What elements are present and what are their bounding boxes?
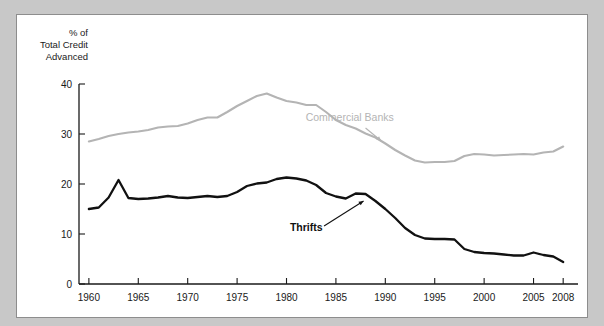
y-axis-title-line-1: % of xyxy=(69,27,88,38)
x-tick-label: 1970 xyxy=(177,292,200,303)
y-tick-label: 10 xyxy=(61,229,73,240)
x-tick-label: 2008 xyxy=(552,292,575,303)
x-axis-ticks: 1960196519701975198019851990199520002005… xyxy=(78,278,575,303)
x-tick-label: 1985 xyxy=(325,292,348,303)
series-line-commercial-banks xyxy=(89,94,563,163)
series-label-commercial-banks: Commercial Banks xyxy=(306,111,394,123)
x-tick-label: 1995 xyxy=(424,292,447,303)
x-tick-label: 1980 xyxy=(275,292,298,303)
y-tick-label: 0 xyxy=(66,279,72,290)
x-tick-label: 2005 xyxy=(522,292,545,303)
leader-line-thrifts xyxy=(324,201,364,226)
x-tick-label: 2000 xyxy=(473,292,496,303)
y-axis-title-line-3: Advanced xyxy=(46,51,88,62)
x-tick-label: 1990 xyxy=(374,292,397,303)
y-axis-title: % of Total Credit Advanced xyxy=(40,27,88,62)
series-label-thrifts: Thrifts xyxy=(290,221,323,233)
x-tick-label: 1960 xyxy=(78,292,101,303)
y-axis-ticks: 010203040 xyxy=(61,79,85,290)
x-tick-label: 1965 xyxy=(127,292,150,303)
credit-share-line-chart: % of Total Credit Advanced 010203040 196… xyxy=(0,0,604,326)
y-tick-label: 30 xyxy=(61,129,73,140)
series-line-thrifts xyxy=(89,178,563,263)
chart-panel: % of Total Credit Advanced 010203040 196… xyxy=(16,14,588,318)
y-tick-label: 40 xyxy=(61,79,73,90)
y-axis-title-line-2: Total Credit xyxy=(40,39,88,50)
x-tick-label: 1975 xyxy=(226,292,249,303)
y-tick-label: 20 xyxy=(61,179,73,190)
series-annotations: Commercial BanksThrifts xyxy=(290,111,394,233)
